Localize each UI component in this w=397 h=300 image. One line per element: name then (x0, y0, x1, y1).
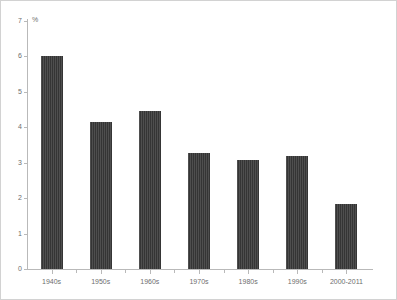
bar[interactable] (139, 111, 161, 269)
x-tick-minor-mark (125, 270, 126, 273)
bar[interactable] (237, 160, 259, 269)
y-tick-mark (24, 269, 28, 270)
y-tick-label: 7 (18, 16, 22, 26)
x-tick-mark (101, 270, 102, 274)
y-tick-label: 1 (18, 229, 22, 239)
bar[interactable] (41, 56, 63, 269)
x-tick-mark (297, 270, 298, 274)
bar-group[interactable] (275, 21, 319, 269)
bar[interactable] (286, 156, 308, 269)
x-tick-mark (248, 270, 249, 274)
x-tick-minor-mark (224, 270, 225, 273)
x-tick-minor-mark (76, 270, 77, 273)
y-tick-label: 5 (18, 87, 22, 97)
x-tick-mark (346, 270, 347, 274)
y-tick-label: 6 (18, 51, 22, 61)
x-tick-minor-mark (273, 270, 274, 273)
bar[interactable] (90, 122, 112, 269)
bar-group[interactable] (177, 21, 221, 269)
x-tick-minor-mark (322, 270, 323, 273)
y-tick-label: 3 (18, 158, 22, 168)
bar-group[interactable] (79, 21, 123, 269)
y-tick-label: 2 (18, 193, 22, 203)
bar-group[interactable] (324, 21, 368, 269)
y-tick-label: 4 (18, 122, 22, 132)
bar-chart-figure: % 01234567 1940s1950s1960s1970s1980s1990… (0, 0, 397, 300)
x-tick-minor-mark (174, 270, 175, 273)
bar-group[interactable] (226, 21, 270, 269)
y-tick-label: 0 (18, 264, 22, 274)
bar[interactable] (335, 204, 357, 269)
plot-area (27, 21, 371, 269)
bar-group[interactable] (30, 21, 74, 269)
x-tick-mark (199, 270, 200, 274)
bar-group[interactable] (128, 21, 172, 269)
x-tick-mark (150, 270, 151, 274)
x-tick-label: 2000-2011 (311, 277, 381, 286)
bar[interactable] (188, 153, 210, 269)
x-tick-mark (52, 270, 53, 274)
